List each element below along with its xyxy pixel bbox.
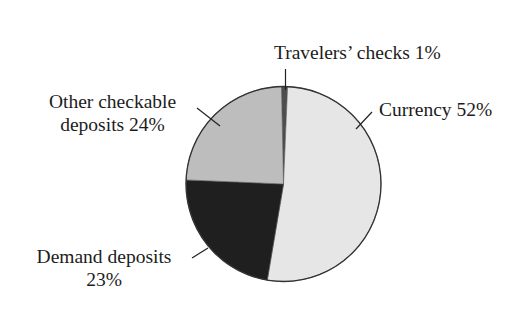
label-other-line1: Other checkable — [30, 90, 195, 113]
leader-line-currency — [356, 112, 372, 129]
label-demand-line2: 23% — [18, 268, 190, 291]
leader-line-demand — [192, 248, 208, 258]
label-other-line2: deposits 24% — [30, 113, 195, 136]
label-currency: Currency 52% — [379, 98, 492, 121]
label-demand-line1: Demand deposits — [18, 245, 190, 268]
pie-slices — [186, 87, 381, 282]
pie-slice-demand-deposits — [186, 180, 284, 280]
label-travelers-checks: Travelers’ checks 1% — [274, 41, 441, 64]
label-demand-deposits: Demand deposits 23% — [18, 245, 190, 291]
pie-slice-other-checkable-deposits — [186, 87, 283, 184]
label-other-checkable: Other checkable deposits 24% — [30, 90, 195, 136]
